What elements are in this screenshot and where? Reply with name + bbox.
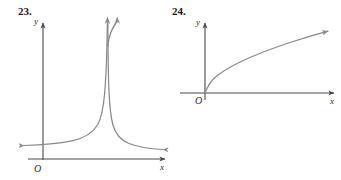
- figure-23-curve-right-branch: [108, 21, 163, 150]
- figure-24: 24. y x O: [168, 0, 341, 180]
- figure-24-origin-label: O: [195, 95, 202, 106]
- figure-23-origin-label: O: [34, 163, 41, 174]
- worksheet-page: 23.: [0, 0, 341, 180]
- figure-23-y-axis-label: y: [33, 16, 38, 26]
- figure-24-curve: [205, 31, 328, 93]
- figure-23: 23.: [0, 0, 170, 180]
- figure-23-right-branch-top-connector: [108, 22, 117, 47]
- figure-24-y-axis-label: y: [195, 17, 200, 27]
- figure-24-x-axis-label: x: [329, 96, 334, 106]
- figure-24-plot: y x O: [168, 0, 341, 180]
- figure-23-plot: y x O: [0, 0, 170, 180]
- figure-23-x-axis-label: x: [159, 162, 164, 172]
- figure-23-curve-left-branch: [24, 21, 107, 146]
